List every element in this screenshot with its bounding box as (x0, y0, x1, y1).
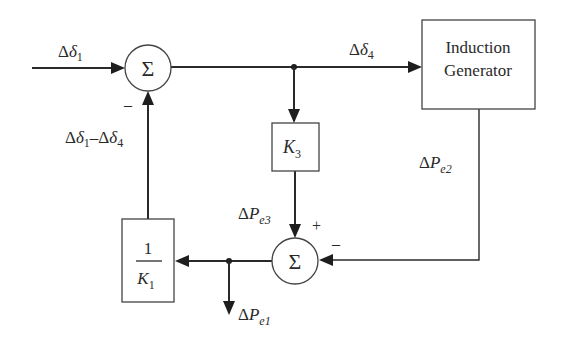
block-diagram: Σ Σ Induction Generator K3 1 K1 Δδ1 Δδ4 … (0, 0, 561, 342)
k1-input-arrowhead-icon (175, 255, 189, 267)
pe2-arrowhead-icon (319, 254, 333, 266)
top-sum-minus-sign: – (123, 96, 133, 113)
delta4-signal-label: Δδ4 (349, 40, 374, 62)
generator-input-arrowhead-icon (408, 61, 422, 73)
bottom-sum-minus-sign: – (331, 235, 341, 252)
feedback-arrowhead-icon (142, 91, 154, 105)
inv-k1-block: 1 K1 (122, 219, 174, 302)
input-signal-label: Δδ1 (58, 42, 83, 64)
induction-generator-block: Induction Generator (422, 20, 535, 109)
feedback-signal-label: Δδ1–Δδ4 (65, 128, 123, 150)
pe1-signal-label: ΔPe1 (238, 305, 271, 328)
induction-generator-line2: Generator (444, 61, 512, 80)
pe1-arrowhead-icon (223, 301, 235, 315)
induction-generator-line1: Induction (445, 38, 511, 57)
pe3-signal-label: ΔPe3 (238, 204, 271, 227)
k3-block: K3 (272, 123, 319, 171)
input-arrowhead-icon (111, 62, 125, 74)
inv-k1-numerator: 1 (144, 239, 153, 258)
k3-input-arrowhead-icon (288, 109, 300, 123)
sigma-top: Σ (142, 56, 155, 81)
pe2-signal-label: ΔPe2 (419, 153, 452, 176)
sigma-bottom: Σ (289, 249, 302, 274)
summing-junction-top: Σ (125, 45, 171, 91)
pe2-wire (327, 109, 479, 260)
pe3-arrowhead-icon (289, 224, 301, 238)
bottom-sum-plus-sign: + (312, 217, 321, 234)
summing-junction-bottom: Σ (272, 238, 318, 284)
